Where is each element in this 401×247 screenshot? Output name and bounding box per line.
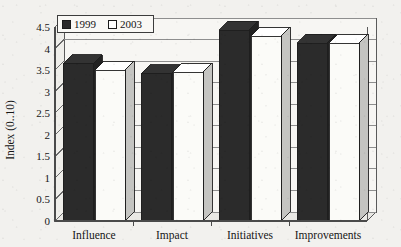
bar-improvements-2003 — [329, 34, 368, 221]
chart-legend: 1999 2003 — [57, 15, 153, 32]
y-tick-label: 0.5 — [36, 193, 50, 205]
x-tick-label-improvements: Improvements — [295, 229, 362, 242]
bar-side-face — [125, 61, 134, 221]
bar-front-face — [95, 70, 125, 221]
bar-chart: 00.511.522.533.544.5 InfluenceImpactInit… — [0, 0, 401, 247]
y-tick-label: 1 — [45, 172, 51, 184]
x-tick-label-initiatives: Initiatives — [227, 229, 274, 241]
bar-side-face — [281, 27, 290, 221]
y-tick-label: 2 — [45, 129, 51, 141]
y-tick-label: 4.5 — [36, 21, 50, 33]
y-axis-title-text: Index (0..10) — [4, 100, 17, 160]
y-tick-label: 3.5 — [36, 64, 50, 76]
bar-front-face — [329, 43, 359, 221]
bar-front-face — [297, 43, 327, 221]
bar-front-face — [141, 74, 171, 221]
bar-influence-2003 — [95, 61, 134, 221]
empty-square-marker — [108, 20, 116, 28]
x-tick-label-impact: Impact — [156, 229, 189, 242]
y-tick-label: 3 — [45, 86, 51, 98]
bar-front-face — [63, 64, 93, 221]
y-axis-title: Index (0..10) — [4, 100, 17, 160]
y-tick-label: 1.5 — [36, 150, 50, 162]
bar-side-face — [359, 34, 368, 221]
y-tick-label: 4 — [45, 43, 51, 55]
bar-front-face — [219, 30, 249, 221]
legend-label-2003: 2003 — [120, 18, 143, 30]
chart-canvas: 00.511.522.533.544.5 InfluenceImpactInit… — [0, 0, 401, 247]
x-tick-label-influence: Influence — [72, 229, 115, 241]
bar-front-face — [173, 72, 203, 221]
y-tick-label: 2.5 — [36, 107, 50, 119]
filled-square-marker — [62, 20, 70, 28]
bar-front-face — [251, 36, 281, 221]
bar-initiatives-2003 — [251, 27, 290, 221]
y-tick-label: 0 — [45, 215, 51, 227]
legend-label-1999: 1999 — [74, 18, 97, 30]
bar-side-face — [203, 63, 212, 221]
bar-impact-2003 — [173, 63, 212, 221]
